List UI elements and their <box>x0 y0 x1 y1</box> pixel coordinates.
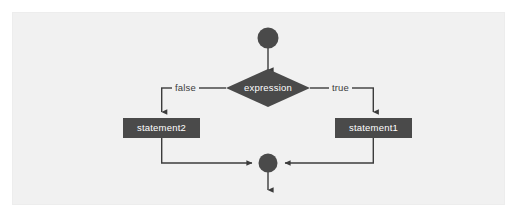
flowchart-canvas: expression statement2 statement1 false t… <box>0 0 526 219</box>
edge-true-statement-to-merge <box>285 138 373 163</box>
start-node <box>258 28 279 49</box>
edge-false-statement-to-merge <box>162 138 252 163</box>
false-branch-statement-label: statement2 <box>137 122 186 133</box>
false-branch-label: false <box>175 82 196 93</box>
true-branch-label: true <box>332 82 349 93</box>
merge-node <box>259 154 278 173</box>
decision-node-label: expression <box>244 82 292 93</box>
true-branch-statement-label: statement1 <box>349 122 398 133</box>
flowchart-figure: expression statement2 statement1 false t… <box>0 0 526 219</box>
